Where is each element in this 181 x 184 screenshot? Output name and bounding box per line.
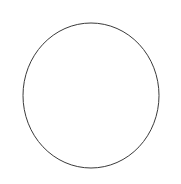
- figure-canvas: [0, 0, 181, 184]
- circle-outline-figure: [0, 0, 181, 184]
- figure-background: [0, 0, 181, 184]
